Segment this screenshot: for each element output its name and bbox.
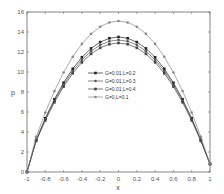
y-tick-label: 6 [21,109,25,115]
x-tick-label: 1 [208,176,212,182]
x-tick-label: 0.6 [169,176,178,182]
series-line [27,43,210,172]
y-tick-label: 10 [17,69,24,75]
series-line [27,37,210,172]
x-tick-label: 0.4 [151,176,160,182]
y-tick-label: 16 [17,9,24,15]
y-tick-label: 8 [21,89,25,95]
legend-entry: G=0.01,L=0.3 [105,78,136,84]
y-axis-label: p [11,89,15,97]
y-tick-label: 14 [17,29,24,35]
x-tick-label: -0.6 [58,176,69,182]
x-tick-label: -0.4 [77,176,88,182]
x-tick-label: 0 [117,176,121,182]
x-tick-label: -1 [24,176,30,182]
y-axis-ticks: 0246810121416 [17,9,210,175]
x-tick-label: 0.8 [188,176,197,182]
x-tick-label: 0.2 [133,176,142,182]
legend-entry: G=0,L=0.1 [105,94,129,100]
x-tick-label: -0.2 [95,176,106,182]
legend-entry: G=0.01,L=0.4 [105,86,136,92]
y-tick-label: 2 [21,149,25,155]
legend-entry: G=0.01,L=0.2 [105,70,136,76]
legend: G=0.01,L=0.2G=0.01,L=0.3G=0.01,L=0.4G=0,… [88,70,136,100]
x-axis-label: x [116,184,120,191]
y-tick-label: 4 [21,129,25,135]
x-tick-label: -0.8 [40,176,51,182]
y-tick-label: 0 [21,169,25,175]
y-tick-label: 12 [17,49,24,55]
chart: -1-0.8-0.6-0.4-0.200.20.40.60.81 0246810… [0,0,224,194]
series-line [27,40,210,172]
